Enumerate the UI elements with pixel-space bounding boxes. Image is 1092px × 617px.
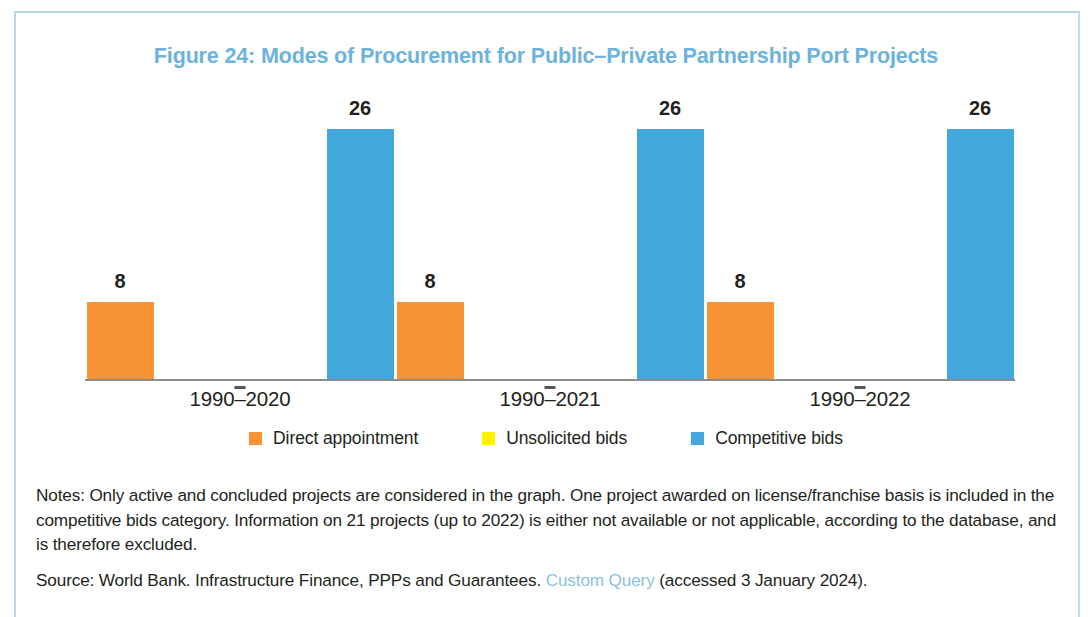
chart-legend: Direct appointmentUnsolicited bidsCompet…: [0, 428, 1092, 449]
bar-value-label: 26: [969, 97, 991, 120]
bar-direct-appointment[interactable]: 8: [707, 302, 774, 379]
x-axis-label: 1990–2022: [705, 387, 1015, 411]
bar-group: 826: [395, 90, 705, 379]
x-axis-label: 1990–2021: [395, 387, 705, 411]
legend-label: Unsolicited bids: [506, 428, 627, 449]
page-frame-top: [14, 11, 1080, 13]
x-axis-category-labels: 1990–20201990–20211990–2022: [85, 387, 1015, 417]
bar-value-label: 8: [424, 270, 435, 293]
x-axis-line: [85, 379, 1015, 381]
bar-competitive-bids[interactable]: 26: [637, 129, 704, 379]
legend-swatch-icon: [482, 432, 495, 445]
legend-item[interactable]: Competitive bids: [691, 428, 843, 449]
legend-label: Competitive bids: [715, 428, 843, 449]
figure-page: Figure 24: Modes of Procurement for Publ…: [0, 0, 1092, 617]
source-prefix-text: Source: World Bank. Infrastructure Finan…: [36, 570, 546, 590]
legend-swatch-icon: [249, 432, 262, 445]
source-suffix-text: (accessed 3 January 2024).: [655, 570, 868, 590]
legend-item[interactable]: Unsolicited bids: [482, 428, 627, 449]
figure-title: Figure 24: Modes of Procurement for Publ…: [0, 44, 1092, 69]
bar-value-label: 26: [659, 97, 681, 120]
chart-plot-area: 826826826: [85, 90, 1015, 380]
bar-value-label: 8: [114, 270, 125, 293]
bar-value-label: 8: [734, 270, 745, 293]
bar-group: 826: [705, 90, 1015, 379]
legend-item[interactable]: Direct appointment: [249, 428, 418, 449]
bar-competitive-bids[interactable]: 26: [947, 129, 1014, 379]
figure-source: Source: World Bank. Infrastructure Finan…: [36, 568, 1062, 593]
figure-notes: Notes: Only active and concluded project…: [36, 483, 1062, 557]
page-frame-left: [14, 11, 16, 617]
bar-direct-appointment[interactable]: 8: [87, 302, 154, 379]
bar-group: 826: [85, 90, 395, 379]
bar-value-label: 26: [349, 97, 371, 120]
custom-query-link[interactable]: Custom Query: [546, 570, 655, 590]
legend-swatch-icon: [691, 432, 704, 445]
page-frame-right: [1078, 11, 1080, 617]
bar-direct-appointment[interactable]: 8: [397, 302, 464, 379]
x-axis-label: 1990–2020: [85, 387, 395, 411]
legend-label: Direct appointment: [273, 428, 418, 449]
bar-competitive-bids[interactable]: 26: [327, 129, 394, 379]
